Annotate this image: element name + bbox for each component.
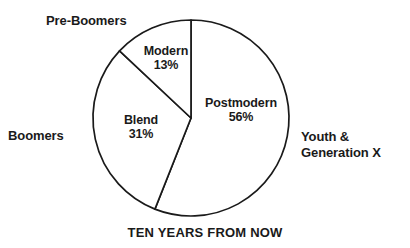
slice-label-blend-name: Blend — [124, 113, 158, 127]
slice-label-modern-name: Modern — [144, 44, 189, 58]
category-label-boomers: Boomers — [8, 129, 64, 144]
category-label-youth-generation-x: Youth & Generation X — [301, 129, 406, 162]
slice-label-modern-percent: 13% — [128, 58, 204, 72]
slice-label-postmodern: Postmodern 56% — [192, 96, 290, 124]
category-label-youth-line2: Generation X — [301, 145, 381, 160]
slice-label-postmodern-percent: 56% — [192, 110, 290, 124]
category-label-pre-boomers: Pre-Boomers — [46, 14, 127, 29]
chart-caption: TEN YEARS FROM NOW — [0, 225, 410, 240]
slice-label-blend: Blend 31% — [107, 113, 175, 141]
slice-label-modern: Modern 13% — [128, 44, 204, 72]
pie-chart-figure: Pre-Boomers Boomers Youth & Generation X… — [0, 0, 410, 248]
category-label-youth-line1: Youth & — [301, 129, 349, 144]
slice-label-blend-percent: 31% — [107, 127, 175, 141]
pie-chart-svg — [0, 0, 410, 248]
slice-label-postmodern-name: Postmodern — [205, 96, 277, 110]
